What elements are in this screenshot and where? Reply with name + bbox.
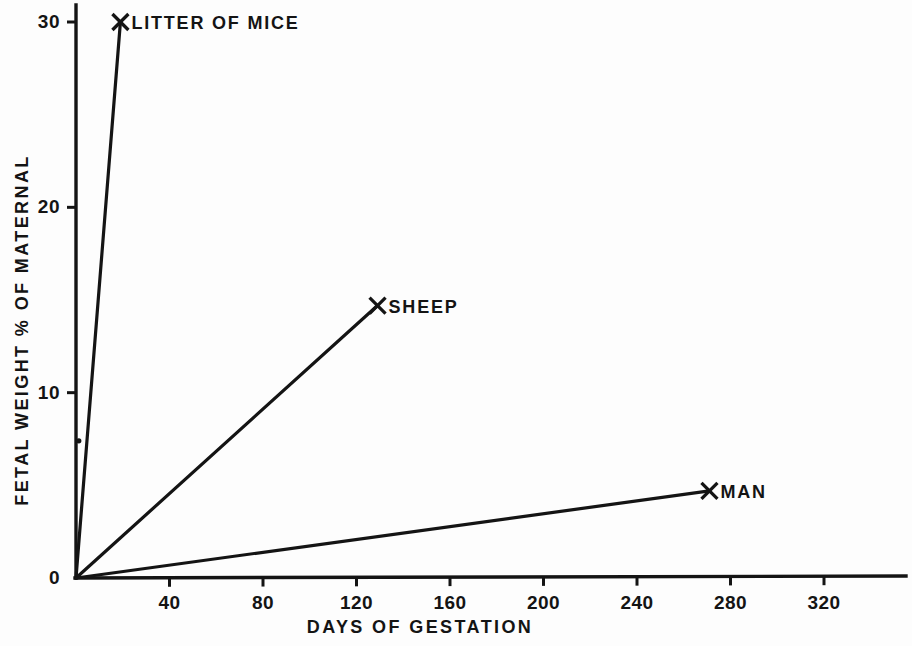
x-tick-label-280: 280 bbox=[714, 592, 747, 614]
x-tick-label-80: 80 bbox=[252, 592, 274, 614]
marker-x-sheep bbox=[370, 298, 386, 314]
data-markers-group bbox=[112, 14, 717, 499]
x-tick-label-40: 40 bbox=[158, 592, 180, 614]
chart-plot-area bbox=[0, 0, 912, 646]
series-label-litter-of-mice: LITTER OF MICE bbox=[131, 13, 299, 34]
series-line-man bbox=[76, 491, 709, 578]
x-axis-line bbox=[75, 576, 906, 578]
x-tick-label-240: 240 bbox=[620, 592, 653, 614]
series-line-sheep bbox=[76, 306, 378, 578]
axes-group bbox=[75, 5, 906, 578]
x-tick-label-120: 120 bbox=[340, 592, 373, 614]
x-tick-label-200: 200 bbox=[527, 592, 560, 614]
series-label-sheep: SHEEP bbox=[389, 296, 459, 317]
chart-figure: 0102030 4080120160200240280320 LITTER OF… bbox=[0, 0, 912, 646]
annotations-group bbox=[76, 438, 81, 443]
y-tick-label-30: 30 bbox=[0, 11, 60, 33]
series-label-man: MAN bbox=[720, 481, 766, 502]
y-axis-title: FETAL WEIGHT % OF MATERNAL bbox=[12, 154, 33, 505]
y-tick-label-0: 0 bbox=[0, 567, 60, 589]
x-axis-title: DAYS OF GESTATION bbox=[307, 617, 534, 638]
series-line-litter-of-mice bbox=[76, 22, 120, 578]
x-tick-label-160: 160 bbox=[433, 592, 466, 614]
x-tick-label-320: 320 bbox=[807, 592, 840, 614]
stray-ink-dot bbox=[76, 438, 81, 443]
